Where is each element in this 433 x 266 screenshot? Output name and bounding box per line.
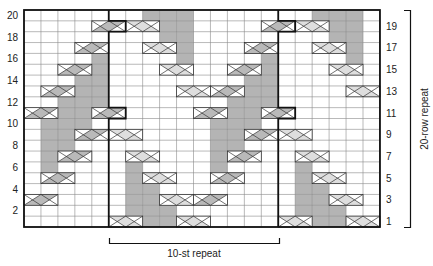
right-cross-cable-icon [177,86,211,97]
gray-stitch-cell [177,21,194,32]
left-cross-cable-icon [92,108,126,119]
gray-stitch-cell [75,119,92,130]
left-cross-cable-icon [41,173,75,184]
gray-stitch-cell [92,86,109,97]
gray-stitch-cell [41,119,58,130]
left-cross-cable-icon [75,43,109,54]
left-cross-cable-icon [244,43,278,54]
left-cross-cable-icon [210,86,244,97]
left-cross-cable-icon [24,194,58,205]
gray-stitch-cell [312,194,329,205]
row-number-label: 15 [386,64,398,75]
right-cross-cable-icon [177,216,211,227]
gray-stitch-cell [329,216,346,227]
row-number-label: 7 [386,151,392,162]
right-cross-cable-icon [346,86,380,97]
gray-stitch-cell [177,10,194,21]
gray-stitch-cell [58,140,75,151]
right-cross-cable-icon [109,129,143,140]
left-cross-cable-icon [194,194,228,205]
gray-stitch-cell [177,43,194,54]
gray-stitch-cell [92,75,109,86]
right-cross-cable-icon [329,64,363,75]
knitting-chart: 2018161412108642191715131197531 10-st re… [0,0,433,266]
gray-stitch-cell [126,205,143,216]
row-number-label: 2 [12,205,18,216]
gray-stitch-cell [92,97,109,108]
row-number-label: 5 [386,173,392,184]
gray-stitch-cell [58,108,75,119]
gray-stitch-cell [126,194,143,205]
gray-stitch-cell [143,10,160,21]
gray-stitch-cell [143,205,160,216]
gray-stitch-cell [312,216,329,227]
gray-stitch-cell [160,32,177,43]
gray-stitch-cell [126,184,143,195]
gray-stitch-cell [329,21,346,32]
gray-stitch-cell [58,97,75,108]
gray-stitch-cell [227,108,244,119]
gray-stitch-cell [227,129,244,140]
gray-stitch-cell [261,97,278,108]
left-cross-cable-icon [244,129,278,140]
gray-stitch-cell [227,119,244,130]
gray-stitch-cell [312,184,329,195]
right-cross-cable-icon [312,173,346,184]
stitch-repeat-label: 10-st repeat [167,248,221,259]
gray-stitch-cell [126,162,143,173]
gray-stitch-cell [75,108,92,119]
gray-stitch-cell [160,205,177,216]
gray-stitch-cell [210,129,227,140]
left-cross-cable-icon [194,108,228,119]
gray-stitch-cell [244,97,261,108]
row-number-label: 19 [386,21,398,32]
left-cross-cable-icon [227,64,261,75]
gray-stitch-cell [143,194,160,205]
right-cross-cable-icon [329,194,363,205]
stitch-repeat-bracket: 10-st repeat [110,238,280,259]
row-number-label: 11 [386,108,397,119]
left-cross-cable-icon [261,108,295,119]
gray-stitch-cell [261,75,278,86]
gray-stitch-cell [210,162,227,173]
gray-stitch-cell [244,75,261,86]
right-cross-cable-icon [278,216,312,227]
gray-stitch-cell [346,53,363,64]
gray-stitch-cell [329,205,346,216]
left-cross-cable-icon [261,21,295,32]
gray-stitch-cell [346,21,363,32]
gray-stitch-cell [41,162,58,173]
row-repeat-bracket: 20-row repeat [404,11,430,228]
gray-stitch-cell [295,194,312,205]
row-number-label: 16 [7,53,19,64]
row-number-label: 1 [386,216,392,227]
right-cross-cable-icon [295,21,329,32]
gray-stitch-cell [92,64,109,75]
gray-stitch-cell [210,119,227,130]
gray-stitch-cell [160,10,177,21]
row-number-label: 20 [7,10,19,21]
left-cross-cable-icon [24,108,58,119]
left-cross-cable-icon [92,21,126,32]
right-cross-cable-icon [295,151,329,162]
gray-stitch-cell [312,10,329,21]
gray-stitch-cell [346,43,363,54]
row-repeat-label: 20-row repeat [419,88,430,150]
gray-stitch-cell [244,108,261,119]
gray-stitch-cell [58,119,75,130]
gray-stitch-cell [143,216,160,227]
gray-stitch-cell [227,140,244,151]
gray-stitch-cell [244,86,261,97]
left-cross-cable-icon [58,64,92,75]
gray-stitch-cell [75,86,92,97]
right-cross-cable-icon [126,151,160,162]
gray-stitch-cell [329,32,346,43]
left-cross-cable-icon [58,151,92,162]
gray-stitch-cell [346,10,363,21]
row-number-label: 18 [7,32,19,43]
gray-stitch-cell [58,129,75,140]
left-cross-cable-icon [227,151,261,162]
row-number-label: 3 [386,194,392,205]
right-cross-cable-icon [143,43,177,54]
gray-stitch-cell [261,86,278,97]
